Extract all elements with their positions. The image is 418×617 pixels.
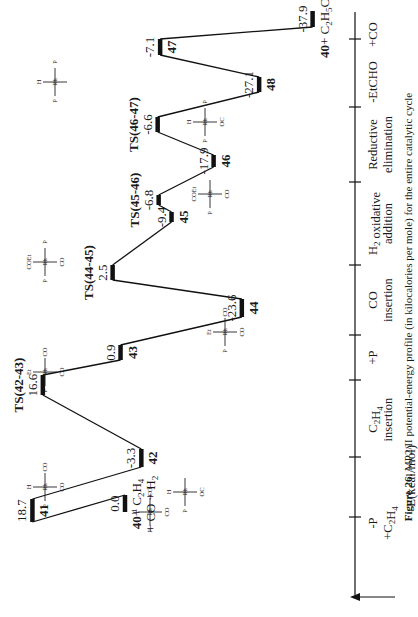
atom-label: Rh	[221, 327, 228, 335]
atom-label: Rh	[206, 189, 213, 197]
step-label-line2: +C2H4	[381, 506, 400, 540]
atom-label: Rh	[201, 117, 208, 125]
atom-label: H	[25, 484, 32, 489]
step-label: CO	[366, 291, 380, 308]
atom-label: P	[206, 211, 213, 215]
atom-label: COEt	[190, 186, 197, 201]
atom-label: H	[165, 489, 172, 494]
step-label-line2: insertion	[381, 277, 395, 321]
energy-value: -17.9	[196, 147, 211, 174]
atom-label: CO	[41, 347, 48, 356]
atom-label: P	[41, 240, 48, 244]
ts-label: TS(42-43)	[11, 358, 26, 413]
atom-label: H	[185, 119, 192, 124]
atom-label: CO	[146, 487, 153, 496]
atom-label: CO	[163, 507, 170, 516]
atom-label: P	[51, 99, 58, 103]
energy-value: 16.6	[25, 373, 40, 396]
atom-label: P	[221, 349, 228, 353]
atom-label: P	[41, 279, 48, 283]
connector-line	[160, 27, 312, 39]
reaction-step-brackets	[349, 12, 361, 595]
atom-label: Rh	[41, 482, 48, 490]
step-label: -P	[366, 517, 380, 528]
step-label: -EtCHO	[366, 61, 380, 103]
molecule-46: RhCOEtCOP	[190, 180, 230, 215]
energy-value: -27.1	[241, 71, 256, 98]
atom-label: CO	[41, 462, 48, 471]
molecule-42: RhHOCP	[165, 478, 205, 513]
atom-label: Rh	[181, 487, 188, 495]
connector-line	[113, 222, 172, 265]
step-label-line2: elimination	[381, 115, 395, 173]
energy-value: 18.7	[14, 499, 29, 522]
rotated-figure-canvas: 0.018.741-3.34216.6TS(42-43)0.943-23.644…	[0, 0, 418, 617]
energy-value: -37.9	[295, 5, 310, 32]
energy-value: -6.8	[141, 190, 156, 211]
ts-label: TS(46-47)	[126, 97, 141, 152]
energy-value: -3.3	[123, 448, 138, 469]
step-label: Reductive	[366, 119, 380, 170]
energy-value: -6.6	[140, 114, 155, 135]
atom-label: H	[130, 509, 137, 514]
atom-label: P	[201, 100, 208, 104]
ts-label: TS(44-45)	[81, 245, 96, 300]
step-label: +P	[366, 350, 380, 364]
atom-label: Rh	[51, 77, 58, 85]
species-label: 44	[246, 301, 261, 315]
atom-label: Rh	[146, 507, 153, 515]
species-label: 45	[176, 210, 191, 224]
atom-label: CO	[58, 367, 65, 376]
connector-line	[43, 360, 121, 375]
atom-label: CO	[221, 307, 228, 316]
energy-value: -7.1	[142, 37, 157, 58]
species-label: 42	[145, 452, 160, 465]
energy-axis	[350, 593, 395, 601]
species-label-40-end: 40+ C2H5CHO	[317, 0, 334, 58]
molecule-45: RhCOEtCOPP	[25, 240, 65, 283]
atom-label: P	[146, 529, 153, 533]
connector-line	[32, 467, 141, 499]
atom-label: CO	[58, 482, 65, 491]
atom-label: OC	[218, 117, 225, 126]
step-label-line2: insertion	[381, 397, 395, 441]
atom-label: P	[41, 504, 48, 508]
energy-value: 2.5	[95, 264, 110, 280]
atom-label: P	[201, 139, 208, 143]
atom-label: Et	[205, 329, 212, 335]
atom-label: CO	[223, 189, 230, 198]
atom-label: CO	[238, 327, 245, 336]
figure-caption: Figure 26. MP2/II potential-energy profi…	[402, 93, 415, 522]
atom-label: Rh	[41, 257, 48, 265]
energy-profile-chart: 0.018.741-3.34216.6TS(42-43)0.943-23.644…	[0, 0, 418, 617]
ts-label: TS(45-46)	[127, 173, 142, 228]
atom-label: P	[51, 60, 58, 64]
figure: 0.018.741-3.34216.6TS(42-43)0.943-23.644…	[0, 0, 418, 617]
atom-label: CO	[58, 257, 65, 266]
molecule-47: RhHPP	[35, 60, 67, 103]
step-label: +CO	[366, 22, 380, 46]
step-label-line2: addition	[381, 202, 395, 244]
energy-value: -9.4	[154, 206, 169, 227]
species-label-40-line2: + CO + H2	[143, 476, 160, 532]
atom-label: OC	[198, 487, 205, 496]
species-label: 43	[125, 346, 140, 360]
atom-label: P	[181, 509, 188, 513]
species-label: 47	[164, 40, 179, 54]
atom-label: P	[41, 389, 48, 393]
connector-line	[113, 280, 242, 299]
atom-label: COEt	[25, 254, 32, 269]
atom-label: Rh	[41, 367, 48, 375]
energy-value: 0.9	[103, 344, 118, 360]
species-label: 48	[263, 78, 278, 92]
connector-line	[43, 395, 142, 449]
energy-value: 0.0	[107, 495, 122, 511]
atom-label: Et	[25, 369, 32, 375]
molecule-44: RhEtCOPCO	[205, 307, 245, 353]
molecule-48: RhHOCPP	[185, 100, 225, 143]
species-label: 46	[218, 154, 233, 168]
atom-label: H	[35, 79, 42, 84]
